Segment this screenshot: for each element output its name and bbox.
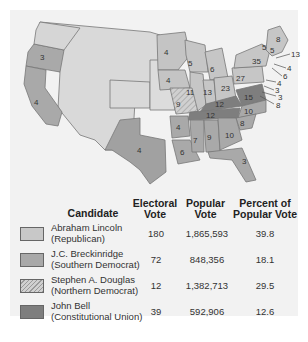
svg-text:10: 10 [244,107,253,116]
svg-text:5: 5 [270,46,275,55]
svg-text:15: 15 [244,93,253,102]
state-california [24,66,62,126]
svg-text:11: 11 [186,88,195,97]
header-electoral: Electoral Vote [126,198,184,220]
svg-text:27: 27 [236,74,245,83]
svg-text:4: 4 [176,123,181,132]
swatch-breckinridge [20,253,44,267]
svg-text:13: 13 [203,88,212,97]
svg-text:8: 8 [276,101,281,110]
svg-text:7: 7 [193,136,198,145]
swatch-bell [20,305,44,319]
svg-text:8: 8 [276,35,281,44]
svg-text:4: 4 [34,98,39,107]
state-michigan [205,48,228,80]
svg-text:8: 8 [240,119,245,128]
svg-text:3: 3 [40,53,45,62]
svg-text:9: 9 [176,100,181,109]
state-florida [208,148,256,182]
legend-row-breckinridge: J.C. Breckinridge(Southern Democrat) 72 … [18,249,293,273]
svg-text:9: 9 [207,133,212,142]
svg-text:4: 4 [164,48,169,57]
state-iowa [158,70,190,90]
svg-text:35: 35 [252,57,261,66]
candidate-name: John Bell(Constitutional Union) [51,301,142,322]
svg-text:5: 5 [262,43,267,52]
svg-text:12: 12 [206,111,215,120]
svg-text:4: 4 [137,146,142,155]
swatch-douglas [20,279,44,293]
legend-row-lincoln: Abraham Lincoln(Republican) 180 1,865,59… [18,223,293,247]
legend-row-bell: John Bell(Constitutional Union) 39 592,9… [18,301,293,325]
svg-text:4: 4 [166,76,171,85]
svg-text:23: 23 [221,84,230,93]
state-minnesota [157,32,190,70]
svg-text:13: 13 [291,50,300,59]
header-popular: Popular Vote [178,198,233,220]
legend-row-douglas: Stephen A. Douglas(Northern Democrat) 12… [18,275,293,299]
svg-text:12: 12 [215,100,224,109]
header-candidate: Candidate [58,208,128,219]
candidate-name: Stephen A. Douglas(Northern Democrat) [51,275,138,296]
candidate-name: Abraham Lincoln(Republican) [51,223,122,244]
election-map-1860: 3 4 4 4 5 6 4 11 13 23 27 35 5 5 8 13 4 … [0,0,308,185]
svg-text:10: 10 [225,131,234,140]
svg-text:3: 3 [242,157,247,166]
candidate-name: J.C. Breckinridge(Southern Democrat) [51,249,140,270]
header-percent: Percent of Popular Vote [230,198,300,220]
svg-text:6: 6 [283,72,288,81]
svg-text:6: 6 [210,65,215,74]
swatch-lincoln [20,227,44,241]
svg-text:4: 4 [287,64,292,73]
svg-text:6: 6 [180,148,185,157]
svg-text:5: 5 [188,59,193,68]
